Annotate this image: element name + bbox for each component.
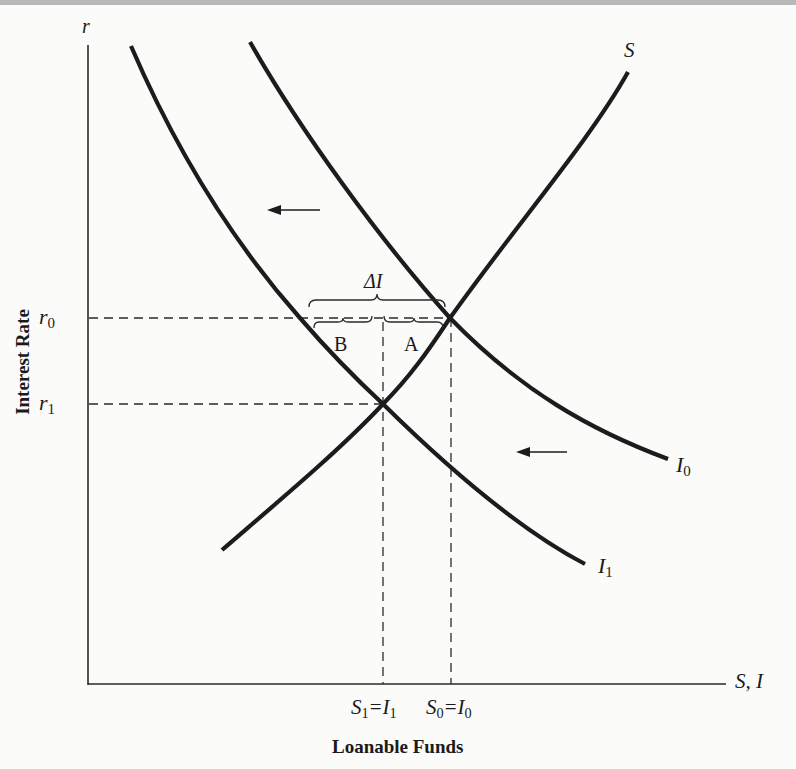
i0-subscript: 0: [683, 463, 690, 479]
loanable-funds-diagram: [0, 0, 796, 769]
investment-curve-i1: [131, 46, 585, 564]
investment-curve-i0: [250, 42, 668, 459]
x-tick-s0-equals-i0: S0=I0: [426, 697, 472, 721]
i1-subscript: 1: [605, 564, 612, 580]
y-axis-variable: r: [82, 16, 90, 36]
r1-base: r: [39, 390, 48, 415]
saving-curve-s: [222, 72, 628, 550]
s1-subscript: 1: [362, 705, 369, 721]
x-tick-s1-equals-i1: S1=I1: [351, 697, 397, 721]
y-axis-title: Interest Rate: [13, 309, 32, 415]
shift-arrow-upper: [267, 205, 320, 215]
s0-subscript: 0: [437, 705, 444, 721]
delta-i-label: ΔI: [364, 271, 382, 291]
r0-base: r: [39, 304, 48, 329]
brace-a-label: A: [404, 334, 418, 354]
equals-sign: =: [370, 695, 382, 719]
y-tick-r0: r0: [39, 306, 55, 331]
r0-subscript: 0: [48, 315, 55, 331]
delta-i-brace: [309, 294, 445, 307]
s1-base: S: [351, 695, 362, 719]
brace-b-label: B: [334, 334, 347, 354]
x-axis-variable: S, I: [735, 671, 763, 692]
r1-subscript: 1: [48, 401, 55, 417]
saving-curve-label: S: [624, 40, 635, 61]
x-axis-title: Loanable Funds: [332, 737, 463, 756]
equals-sign: =: [445, 695, 457, 719]
i1-tick-subscript: 1: [389, 705, 396, 721]
y-tick-r1: r1: [39, 392, 55, 417]
s0-base: S: [426, 695, 437, 719]
shift-arrow-lower: [516, 447, 567, 457]
guide-lines: [89, 318, 451, 684]
i0-tick-subscript: 0: [464, 705, 471, 721]
investment-i0-label: I0: [676, 454, 691, 479]
investment-i1-label: I1: [598, 555, 613, 580]
